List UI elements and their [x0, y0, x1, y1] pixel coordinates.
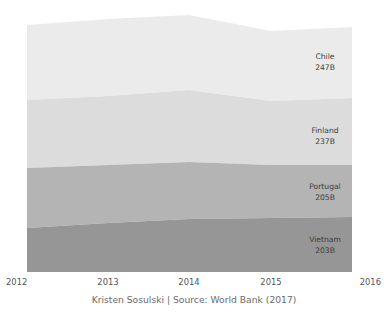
band-label-vietnam-value: 203B [315, 246, 335, 255]
stacked-area-chart: Chile 247B Finland 237B Portugal 205B Vi… [0, 0, 388, 313]
band-label-finland-value: 237B [315, 137, 335, 146]
band-label-finland-name: Finland [311, 126, 338, 135]
area-band-vietnam [27, 217, 352, 272]
axis-tick-2016: 2016 [360, 277, 381, 287]
axis-tick-2014: 2014 [178, 277, 199, 287]
chart-canvas: Chile 247B Finland 237B Portugal 205B Vi… [0, 0, 388, 313]
band-label-vietnam-name: Vietnam [309, 235, 341, 244]
band-label-portugal-name: Portugal [309, 182, 340, 191]
chart-caption: Kristen Sosulski | Source: World Bank (2… [92, 294, 297, 305]
axis-tick-2012: 2012 [6, 277, 27, 287]
band-label-chile-name: Chile [315, 52, 334, 61]
area-band-finland [27, 90, 352, 168]
axis-tick-2015: 2015 [260, 277, 281, 287]
band-label-chile-value: 247B [315, 63, 335, 72]
area-band-chile [27, 15, 352, 101]
band-label-portugal-value: 205B [315, 193, 335, 202]
axis-tick-2013: 2013 [97, 277, 118, 287]
